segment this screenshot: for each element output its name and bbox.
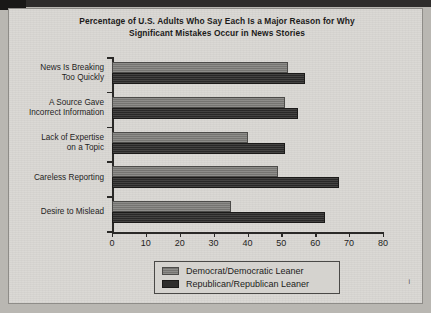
y-axis-label: Desire to Mislead (4, 207, 104, 217)
page-corner-mark: i (408, 278, 410, 285)
x-axis-tick (214, 232, 215, 237)
chart-page: Percentage of U.S. Adults Who Say Each I… (0, 0, 431, 313)
bar-democrat (112, 97, 285, 108)
x-axis-tick (112, 232, 113, 237)
x-axis-tick (281, 232, 282, 237)
x-axis-tick (349, 232, 350, 237)
scan-edge-band (0, 0, 431, 7)
bar-group: A Source GaveIncorrect Information (112, 92, 383, 127)
y-axis-tick (107, 196, 112, 198)
y-axis-tick (107, 127, 112, 129)
bar-republican (112, 108, 298, 119)
bar-democrat (112, 132, 248, 143)
y-axis-label: A Source GaveIncorrect Information (4, 98, 104, 118)
chart-title-line-1: Percentage of U.S. Adults Who Say Each I… (27, 16, 407, 28)
y-axis-label-line: Lack of Expertise (4, 133, 104, 143)
bar-republican (112, 212, 325, 223)
chart-figure: Percentage of U.S. Adults Who Say Each I… (8, 8, 423, 304)
legend-label-democrat: Democrat/Democratic Leaner (186, 265, 304, 277)
bar-group: Lack of Expertiseon a Topic (112, 127, 383, 162)
legend-swatch-republican (162, 280, 179, 288)
bar-republican (112, 177, 339, 188)
x-axis-tick-label: 70 (337, 238, 361, 248)
plot-area: News Is BreakingToo QuicklyA Source Gave… (112, 57, 383, 231)
x-axis-tick-label: 10 (134, 238, 158, 248)
chart-title-line-2: Significant Mistakes Occur in News Stori… (27, 28, 407, 40)
x-axis-tick (248, 232, 249, 237)
bar-group: News Is BreakingToo Quickly (112, 57, 383, 92)
bar-democrat (112, 166, 278, 177)
x-axis-tick-label: 60 (303, 238, 327, 248)
x-axis-tick-label: 30 (202, 238, 226, 248)
x-axis-tick (383, 232, 384, 237)
legend-swatch-democrat (162, 267, 179, 275)
x-axis-tick-label: 20 (168, 238, 192, 248)
y-axis-label: News Is BreakingToo Quickly (4, 63, 104, 83)
y-axis-label-line: News Is Breaking (4, 63, 104, 73)
x-axis-tick (146, 232, 147, 237)
y-axis-label-line: A Source Gave (4, 98, 104, 108)
chart-title: Percentage of U.S. Adults Who Say Each I… (27, 16, 407, 39)
y-axis-tick (107, 92, 112, 94)
x-axis-tick (180, 232, 181, 237)
x-axis-tick-label: 40 (236, 238, 260, 248)
y-axis-tick (107, 57, 112, 59)
y-axis-label-line: Careless Reporting (4, 173, 104, 183)
bar-democrat (112, 201, 231, 212)
y-axis-label-line: on a Topic (4, 143, 104, 153)
bar-republican (112, 143, 285, 154)
legend-label-republican: Republican/Republican Leaner (186, 278, 309, 290)
y-axis-tick (107, 161, 112, 163)
x-axis-tick-label: 50 (269, 238, 293, 248)
bar-group: Desire to Mislead (112, 196, 383, 231)
y-axis-label: Careless Reporting (4, 173, 104, 183)
x-axis-tick-label: 0 (100, 238, 124, 248)
bar-group: Careless Reporting (112, 161, 383, 196)
y-axis-label-line: Incorrect Information (4, 108, 104, 118)
bar-democrat (112, 62, 288, 73)
chart-legend: Democrat/Democratic Leaner Republican/Re… (154, 261, 340, 294)
x-axis-tick-label: 80 (371, 238, 395, 248)
y-axis-label-line: Too Quickly (4, 73, 104, 83)
bar-republican (112, 73, 305, 84)
y-axis-label: Lack of Expertiseon a Topic (4, 133, 104, 153)
y-axis-label-line: Desire to Mislead (4, 207, 104, 217)
x-axis-tick (315, 232, 316, 237)
